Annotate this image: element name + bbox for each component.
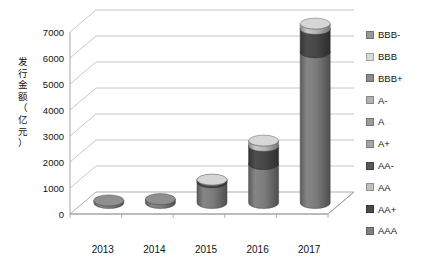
- legend-swatch-icon: [366, 140, 374, 148]
- legend-item-label: BBB-: [378, 30, 400, 40]
- plot-svg: [66, 18, 356, 238]
- y-axis-tick-label: 7000: [43, 27, 64, 38]
- y-axis-tick-label: 5000: [43, 79, 64, 90]
- chart-legend: BBB-BBBBBB+A-AA+AA-AAAA+AAA: [366, 24, 424, 242]
- bar-segment-cap: [145, 194, 175, 205]
- legend-swatch-icon: [366, 205, 374, 213]
- y-axis-tick-label: 0: [59, 209, 64, 220]
- chart-container: 发 行 金 额 （ 亿 元 ） 010002000300040005000600…: [0, 0, 424, 275]
- y-axis-tick-label: 3000: [43, 131, 64, 142]
- legend-item-aaplus[interactable]: AA+: [366, 198, 424, 220]
- legend-item-label: BBB+: [378, 74, 403, 84]
- legend-swatch-icon: [366, 96, 374, 104]
- legend-item-label: BBB: [378, 52, 397, 62]
- x-axis-tick-labels: 20132014201520162017: [60, 244, 360, 262]
- legend-item-aa[interactable]: AA: [366, 177, 424, 199]
- bar-segment-cap: [249, 135, 279, 146]
- legend-item-label: AAA: [378, 226, 397, 236]
- legend-item-label: AA-: [378, 161, 394, 171]
- legend-item-bbbminus[interactable]: BBB-: [366, 24, 424, 46]
- y-axis-tick-label: 6000: [43, 53, 64, 64]
- bar-2014: [145, 194, 175, 209]
- bar-segment-cap: [197, 174, 227, 185]
- bar-2013: [94, 195, 124, 209]
- bar-segment-cap: [300, 18, 330, 29]
- legend-item-aaa[interactable]: AAA: [366, 220, 424, 242]
- legend-swatch-icon: [366, 74, 374, 82]
- legend-item-aminus[interactable]: A-: [366, 89, 424, 111]
- bar-segment: [300, 52, 330, 208]
- plot-area: [66, 18, 356, 238]
- bar-2016: [249, 135, 279, 208]
- legend-item-label: AA: [378, 183, 391, 193]
- legend-item-label: A: [378, 117, 384, 127]
- legend-item-bbbplus[interactable]: BBB+: [366, 68, 424, 90]
- bar-2015: [197, 174, 227, 208]
- legend-swatch-icon: [366, 31, 374, 39]
- bar-2017: [300, 18, 330, 208]
- legend-item-aaminus[interactable]: AA-: [366, 155, 424, 177]
- legend-item-bbb[interactable]: BBB: [366, 46, 424, 68]
- legend-item-a[interactable]: A: [366, 111, 424, 133]
- bar-segment-cap: [94, 195, 124, 206]
- x-axis-tick-label: 2015: [195, 244, 217, 255]
- x-axis-tick-label: 2014: [143, 244, 165, 255]
- legend-swatch-icon: [366, 227, 374, 235]
- legend-swatch-icon: [366, 162, 374, 170]
- x-axis-tick-label: 2017: [298, 244, 320, 255]
- legend-swatch-icon: [366, 118, 374, 126]
- legend-item-label: A-: [378, 96, 388, 106]
- legend-item-aplus[interactable]: A+: [366, 133, 424, 155]
- y-axis-tick-label: 4000: [43, 105, 64, 116]
- x-axis-tick-label: 2013: [92, 244, 114, 255]
- y-axis-tick-label: 2000: [43, 157, 64, 168]
- legend-item-label: AA+: [378, 205, 396, 215]
- legend-item-label: A+: [378, 139, 390, 149]
- legend-swatch-icon: [366, 53, 374, 61]
- legend-swatch-icon: [366, 183, 374, 191]
- y-axis-tick-label: 1000: [43, 183, 64, 194]
- x-axis-tick-label: 2016: [246, 244, 268, 255]
- y-axis-tick-labels: 01000200030004000500060007000: [30, 20, 64, 235]
- bar-segment: [249, 164, 279, 209]
